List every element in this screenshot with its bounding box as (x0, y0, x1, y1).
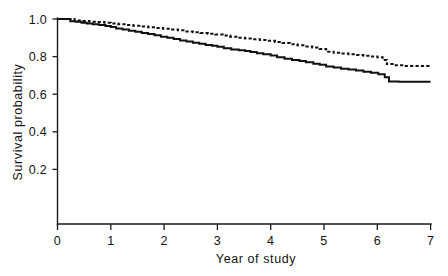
x-tick-label-0: 0 (54, 234, 61, 248)
y-tick-label-0.6: 0.6 (29, 88, 47, 102)
x-tick-label-7: 7 (427, 234, 434, 248)
y-tick-label-0.4: 0.4 (29, 125, 47, 139)
x-axis-tick-labels: 0 1 2 3 4 5 6 7 (54, 234, 434, 248)
y-axis-title: Survival probability (11, 63, 25, 180)
y-tick-label-0.2: 0.2 (29, 163, 47, 177)
y-tick-label-0.8: 0.8 (29, 50, 47, 64)
y-axis-ticks (53, 19, 58, 169)
x-tick-label-5: 5 (320, 234, 327, 248)
y-tick-label-1.0: 1.0 (29, 13, 47, 27)
survival-curve-figure: 1.0 0.8 0.6 0.4 0.2 0 1 2 3 4 5 6 7 (0, 0, 448, 276)
x-axis-title: Year of study (216, 252, 296, 266)
series-solid-curve (58, 19, 431, 82)
x-tick-label-3: 3 (214, 234, 221, 248)
chart-canvas: 1.0 0.8 0.6 0.4 0.2 0 1 2 3 4 5 6 7 (0, 0, 448, 276)
x-tick-label-6: 6 (374, 234, 381, 248)
x-tick-label-2: 2 (160, 234, 167, 248)
x-tick-label-4: 4 (267, 234, 274, 248)
x-axis-ticks (58, 224, 431, 230)
x-tick-label-1: 1 (107, 234, 114, 248)
y-axis-tick-labels: 1.0 0.8 0.6 0.4 0.2 (29, 13, 47, 177)
